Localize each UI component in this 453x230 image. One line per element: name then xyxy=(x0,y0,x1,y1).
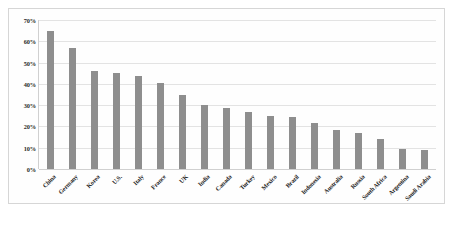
bar-fill xyxy=(355,133,362,169)
bar-fill xyxy=(157,83,164,169)
bar-fill xyxy=(311,123,318,169)
bar[interactable] xyxy=(267,116,274,169)
bar-fill xyxy=(69,48,76,169)
y-axis-tick-label: 10% xyxy=(24,144,36,151)
category-label: Korea xyxy=(85,173,101,189)
category-label: Italy xyxy=(132,173,145,186)
bar-fill xyxy=(91,71,98,169)
category-label: Canada xyxy=(214,173,233,192)
bar-fill xyxy=(421,150,428,169)
bar-fill xyxy=(223,108,230,169)
bar-fill xyxy=(289,117,296,169)
bar[interactable] xyxy=(47,31,54,169)
bar-fill xyxy=(333,130,340,169)
bar[interactable] xyxy=(91,71,98,169)
category-label: UK xyxy=(178,173,189,184)
bar-fill xyxy=(399,149,406,169)
bar[interactable] xyxy=(201,105,208,169)
bar[interactable] xyxy=(179,95,186,170)
bar[interactable] xyxy=(245,112,252,169)
bar-fill xyxy=(179,95,186,170)
bar[interactable] xyxy=(135,76,142,169)
bars-layer xyxy=(39,20,436,169)
bar-fill xyxy=(245,112,252,169)
bar[interactable] xyxy=(377,139,384,169)
category-label: Brazil xyxy=(284,173,300,189)
bar[interactable] xyxy=(355,133,362,169)
bar-fill xyxy=(377,139,384,169)
bar[interactable] xyxy=(399,149,406,169)
bar[interactable] xyxy=(311,123,318,169)
bar-fill xyxy=(135,76,142,169)
bar[interactable] xyxy=(333,130,340,169)
bar-fill xyxy=(267,116,274,169)
bar[interactable] xyxy=(69,48,76,169)
category-label: Turkey xyxy=(237,173,255,191)
category-label: Mexico xyxy=(259,173,277,191)
bar-chart-figure: 0%10%20%30%40%50%60%70% ChinaGermanyKore… xyxy=(8,8,445,204)
bar[interactable] xyxy=(157,83,164,169)
category-label: Russia xyxy=(349,173,366,190)
y-axis-tick-label: 60% xyxy=(24,38,36,45)
category-label: France xyxy=(150,173,168,191)
bar-fill xyxy=(47,31,54,169)
bar[interactable] xyxy=(289,117,296,169)
y-axis-tick-label: 20% xyxy=(24,123,36,130)
gridline-0 xyxy=(39,169,436,170)
category-label: India xyxy=(197,173,212,188)
y-axis-tick-label: 50% xyxy=(24,59,36,66)
bar[interactable] xyxy=(113,73,120,169)
category-label: U.S. xyxy=(111,173,123,185)
bar[interactable] xyxy=(223,108,230,169)
y-axis-tick-label: 70% xyxy=(24,17,36,24)
category-label: Indonesia xyxy=(299,173,322,196)
category-label: Germany xyxy=(57,173,79,195)
bar[interactable] xyxy=(421,150,428,169)
category-axis-labels: ChinaGermanyKoreaU.S.ItalyFranceUKIndiaC… xyxy=(38,171,436,205)
category-label: Australia xyxy=(322,173,344,195)
bar-fill xyxy=(113,73,120,169)
category-label: China xyxy=(41,173,57,189)
y-axis-tick-label: 30% xyxy=(24,102,36,109)
y-axis-tick-label: 40% xyxy=(24,80,36,87)
bar-fill xyxy=(201,105,208,169)
plot-area: 0%10%20%30%40%50%60%70% xyxy=(38,20,436,169)
y-axis-tick-label: 0% xyxy=(27,166,36,173)
